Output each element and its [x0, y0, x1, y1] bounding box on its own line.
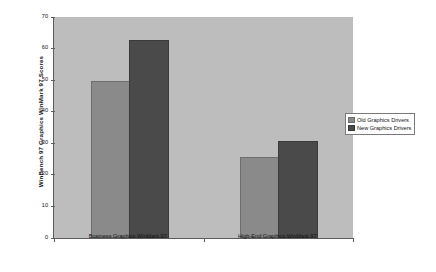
- y-tick-label: 30: [42, 139, 48, 145]
- y-tick-label: 60: [42, 44, 48, 50]
- x-axis-category-label: High-End Graphics WinMark 97: [238, 233, 317, 239]
- bar: [91, 81, 131, 238]
- x-axis-end-tick: [353, 238, 354, 242]
- x-axis-end-tick: [54, 238, 55, 242]
- y-tick-mark: [51, 80, 55, 81]
- legend-item[interactable]: Old Graphics Drivers: [348, 116, 411, 124]
- legend-label: Old Graphics Drivers: [357, 117, 409, 123]
- plot-area: 706050403020100: [53, 17, 353, 239]
- legend-item[interactable]: New Graphics Drivers: [348, 124, 411, 132]
- y-tick-label: 70: [42, 13, 48, 19]
- y-tick-label: 10: [42, 202, 48, 208]
- y-tick-mark: [51, 17, 55, 18]
- legend-swatch-icon: [348, 125, 355, 132]
- y-tick-mark: [51, 206, 55, 207]
- legend-label: New Graphics Drivers: [357, 125, 411, 131]
- x-group-tick: [204, 238, 205, 242]
- bar: [240, 157, 280, 238]
- x-axis-category-label: Business Graphics WinMark 97: [89, 233, 167, 239]
- bar: [129, 40, 169, 238]
- bar-chart: WinBench 97 Graphics WinMark 97 Scores 7…: [0, 0, 436, 272]
- y-tick-label: 20: [42, 170, 48, 176]
- y-tick-mark: [51, 111, 55, 112]
- y-tick-label: 0: [45, 234, 48, 240]
- bar: [278, 141, 318, 238]
- y-tick-label: 40: [42, 107, 48, 113]
- y-tick-mark: [51, 174, 55, 175]
- y-tick-mark: [51, 143, 55, 144]
- chart-legend: Old Graphics DriversNew Graphics Drivers: [345, 113, 415, 135]
- legend-swatch-icon: [348, 117, 355, 124]
- y-tick-label: 50: [42, 76, 48, 82]
- y-tick-mark: [51, 48, 55, 49]
